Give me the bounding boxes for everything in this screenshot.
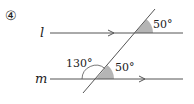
label-m: m xyxy=(35,71,47,86)
label-l: l xyxy=(40,25,44,40)
problem-number: ④ xyxy=(5,8,17,23)
angle-label-130: 130° xyxy=(66,57,93,70)
transversal xyxy=(83,9,155,93)
angle-label-bottom-right: 50° xyxy=(115,61,135,74)
angle-label-top-right: 50° xyxy=(153,18,173,31)
parallel-lines-diagram: ④ l m 50° 130° 50° xyxy=(0,0,194,104)
